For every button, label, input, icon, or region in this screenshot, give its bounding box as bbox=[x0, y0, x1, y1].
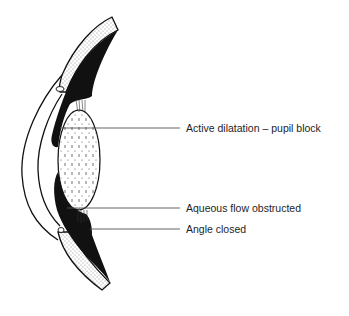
trabecular-loop-upper bbox=[56, 87, 64, 92]
cornea-outer bbox=[22, 75, 62, 240]
trabecular-loop-lower bbox=[58, 228, 64, 233]
eye-cross-section-diagram: Active dilatation – pupil block Aqueous … bbox=[0, 0, 349, 316]
diagram-illustration bbox=[0, 0, 349, 316]
lens bbox=[58, 110, 100, 210]
label-aqueous-flow-obstructed: Aqueous flow obstructed bbox=[186, 202, 301, 214]
label-angle-closed: Angle closed bbox=[186, 223, 246, 235]
label-active-dilatation: Active dilatation – pupil block bbox=[186, 122, 321, 134]
